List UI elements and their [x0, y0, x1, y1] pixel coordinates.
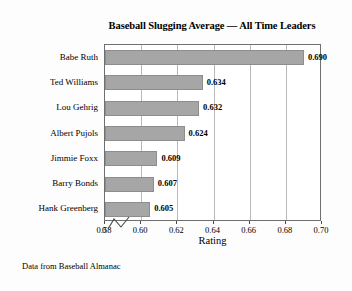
x-tick-mark	[249, 221, 250, 224]
value-label: 0.632	[203, 102, 222, 112]
value-label: 0.624	[189, 128, 208, 138]
x-tick-mark	[321, 221, 322, 224]
bar-value-labels: 0.6900.6340.6320.6240.6090.6070.605	[104, 44, 352, 221]
value-label: 0.690	[308, 52, 327, 62]
chart-footnote: Data from Baseball Almanac	[22, 261, 120, 271]
category-label: Babe Ruth	[0, 52, 98, 62]
x-tick-mark	[140, 221, 141, 224]
category-label: Hank Greenberg	[0, 203, 98, 213]
y-axis-category-labels: Babe RuthTed WilliamsLou GehrigAlbert Pu…	[0, 44, 100, 221]
axis-break-icon	[104, 216, 140, 230]
chart-title: Baseball Slugging Average — All Time Lea…	[104, 19, 320, 32]
x-tick-mark	[213, 221, 214, 224]
value-label: 0.609	[161, 153, 180, 163]
category-label: Jimmie Foxx	[0, 153, 98, 163]
category-label: Albert Pujols	[0, 128, 98, 138]
x-axis-title: Rating	[104, 234, 321, 247]
category-label: Lou Gehrig	[0, 102, 98, 112]
x-tick-mark	[285, 221, 286, 224]
category-label: Ted Williams	[0, 77, 98, 87]
category-label: Barry Bonds	[0, 178, 98, 188]
chart-figure: Baseball Slugging Average — All Time Lea…	[0, 0, 352, 291]
value-label: 0.607	[158, 178, 177, 188]
x-tick-mark	[176, 221, 177, 224]
value-label: 0.634	[207, 77, 226, 87]
value-label: 0.605	[154, 203, 173, 213]
